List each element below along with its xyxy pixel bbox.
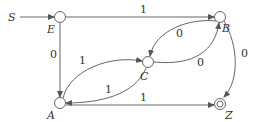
edge-b-c: 0 [150, 21, 216, 56]
edge-label: 0 [197, 56, 204, 69]
node-a: A [46, 98, 66, 122]
edge-label: 1 [140, 91, 147, 104]
edge-label: 1 [105, 83, 112, 96]
node-z-accepting: Z [215, 99, 234, 122]
edge-label: 0 [176, 27, 183, 40]
node-label: Z [224, 109, 233, 121]
edge-label: 1 [140, 3, 147, 16]
edge-label: 0 [50, 48, 57, 61]
node-label: A [46, 109, 55, 121]
edge-e-b: 1 [66, 3, 214, 17]
node-label: E [46, 23, 55, 36]
node-c: C [140, 57, 154, 84]
edge-label: 1 [79, 54, 86, 67]
edge-c-b: 0 [154, 23, 219, 69]
edge-label: 0 [241, 47, 248, 60]
edge-a-z: 1 [66, 91, 214, 105]
start-label: S [8, 11, 16, 24]
edge-c-a: 1 [66, 68, 146, 103]
node-label: B [221, 22, 230, 35]
node-label: C [140, 70, 149, 83]
edge-a-c: 1 [63, 54, 142, 98]
node-e: E [46, 12, 66, 37]
automaton-diagram: 1 0 1 1 0 0 0 1 S E B [0, 0, 259, 121]
